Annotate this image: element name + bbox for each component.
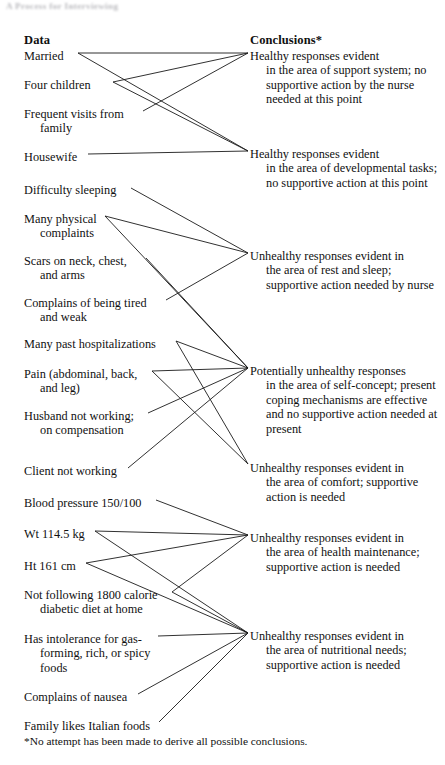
data-item-client-not-working: Client not working — [24, 464, 209, 478]
conclusion-nutritional-needs: Unhealthy responses evident inthe area o… — [250, 629, 445, 672]
data-item-continuation: family — [24, 121, 209, 135]
column-header-conclusions: Conclusions* — [250, 33, 322, 48]
data-item-continuation: on compensation — [24, 423, 209, 437]
conclusion-label: Unhealthy responses evident in — [250, 461, 445, 475]
data-item-continuation: and weak — [24, 310, 209, 324]
data-item-continuation: complaints — [24, 226, 209, 240]
conclusion-developmental-tasks: Healthy responses evidentin the area of … — [250, 147, 445, 190]
conclusion-continuation: the area of health maintenance; supporti… — [250, 545, 445, 574]
link-hospitalizations-to-comfort — [176, 341, 248, 464]
data-item-label: Housewife — [24, 150, 77, 164]
data-item-four-children: Four children — [24, 78, 209, 92]
conclusion-label: Potentially unhealthy responses — [250, 364, 445, 378]
data-item-label: Client not working — [24, 464, 117, 478]
link-married-to-developmental-tasks — [78, 53, 248, 151]
column-header-data: Data — [24, 33, 50, 48]
running-head: A Process for Interviewing — [6, 1, 118, 11]
data-item-label: Wt 114.5 kg — [24, 527, 85, 541]
data-item-label: Has intolerance for gas- — [24, 632, 142, 646]
data-item-continuation: and arms — [24, 268, 209, 282]
data-item-label: Husband not working; — [24, 409, 134, 423]
data-item-blood-pressure: Blood pressure 150/100 — [24, 496, 209, 510]
conclusion-label: Unhealthy responses evident in — [250, 629, 445, 643]
data-item-difficulty-sleeping: Difficulty sleeping — [24, 183, 209, 197]
conclusion-continuation: the area of rest and sleep; supportive a… — [250, 263, 445, 292]
data-item-label: Frequent visits from — [24, 107, 124, 121]
conclusion-rest-and-sleep: Unhealthy responses evident inthe area o… — [250, 249, 445, 292]
data-item-continuation: diabetic diet at home — [24, 602, 209, 616]
conclusion-continuation: the area of nutritional needs; supportiv… — [250, 643, 445, 672]
data-item-husband-not-working: Husband not working;on compensation — [24, 409, 209, 438]
footnote: *No attempt has been made to derive all … — [24, 735, 307, 747]
data-item-italian-foods: Family likes Italian foods — [24, 719, 209, 733]
conclusion-label: Healthy responses evident — [250, 49, 445, 63]
data-item-label: Not following 1800 calorie — [24, 588, 158, 602]
conclusion-support-system: Healthy responses evidentin the area of … — [250, 49, 445, 107]
conclusion-label: Unhealthy responses evident in — [250, 249, 445, 263]
data-item-married: Married — [24, 49, 209, 63]
data-item-continuation: forming, rich, or spicy foods — [24, 646, 209, 675]
data-item-label: Ht 161 cm — [24, 559, 76, 573]
data-item-tired-weak: Complains of being tiredand weak — [24, 296, 209, 325]
conclusion-continuation: in the area of self-concept; present cop… — [250, 378, 445, 436]
link-weight-to-nutritional-needs — [95, 531, 248, 633]
conclusion-continuation: in the area of developmental tasks; no s… — [250, 161, 445, 190]
conclusion-continuation: the area of comfort; supportive action i… — [250, 475, 445, 504]
data-item-height: Ht 161 cm — [24, 559, 209, 573]
data-item-weight: Wt 114.5 kg — [24, 527, 209, 541]
data-item-label: Many physical — [24, 212, 97, 226]
data-item-label: Four children — [24, 78, 91, 92]
data-item-label: Complains of nausea — [24, 690, 127, 704]
conclusion-comfort: Unhealthy responses evident inthe area o… — [250, 461, 445, 504]
conclusion-label: Unhealthy responses evident in — [250, 531, 445, 545]
data-item-hospitalizations: Many past hospitalizations — [24, 337, 209, 351]
data-item-nausea: Complains of nausea — [24, 690, 209, 704]
data-item-gas-intolerance: Has intolerance for gas-forming, rich, o… — [24, 632, 209, 675]
conclusion-health-maintenance: Unhealthy responses evident inthe area o… — [250, 531, 445, 574]
data-item-continuation: and leg) — [24, 381, 209, 395]
diagram-page: A Process for Interviewing Data Conclusi… — [0, 0, 445, 765]
conclusion-self-concept: Potentially unhealthy responsesin the ar… — [250, 364, 445, 436]
data-item-diabetic-diet: Not following 1800 caloriediabetic diet … — [24, 588, 209, 617]
data-item-scars: Scars on neck, chest,and arms — [24, 254, 209, 283]
data-item-label: Many past hospitalizations — [24, 337, 156, 351]
data-item-label: Scars on neck, chest, — [24, 254, 127, 268]
data-item-label: Complains of being tired — [24, 296, 147, 310]
data-item-frequent-visits: Frequent visits fromfamily — [24, 107, 209, 136]
data-item-label: Pain (abdominal, back, — [24, 367, 137, 381]
conclusion-continuation: in the area of support system; no suppor… — [250, 63, 445, 106]
data-item-label: Family likes Italian foods — [24, 719, 150, 733]
data-item-many-physical: Many physicalcomplaints — [24, 212, 209, 241]
conclusion-label: Healthy responses evident — [250, 147, 445, 161]
data-item-label: Difficulty sleeping — [24, 183, 116, 197]
data-item-housewife: Housewife — [24, 150, 209, 164]
data-item-label: Blood pressure 150/100 — [24, 496, 142, 510]
data-item-label: Married — [24, 49, 64, 63]
data-item-pain: Pain (abdominal, back,and leg) — [24, 367, 209, 396]
